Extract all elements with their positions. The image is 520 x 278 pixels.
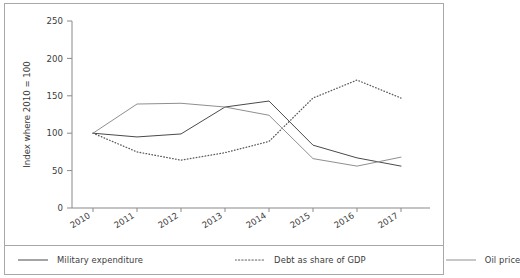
legend-swatch-dotted-icon: [235, 256, 265, 264]
x-axis-tick-label: 2017: [376, 210, 400, 230]
x-axis-tick-label: 2013: [200, 210, 224, 230]
x-axis-tick-label: 2010: [68, 210, 92, 230]
x-axis-tick-label: 2012: [156, 210, 180, 230]
series-line-debt-as-share-of-gdp: [93, 80, 401, 160]
y-axis-tick-label: 250: [47, 16, 63, 26]
x-axis-tick-label: 2015: [288, 210, 312, 230]
legend-item-oil-price: Oil price: [446, 255, 520, 265]
x-axis-tick-label: 2014: [244, 210, 268, 230]
y-axis-tick-label: 0: [58, 203, 63, 213]
legend-label-debt-as-share-of-gdp: Debt as share of GDP: [274, 255, 366, 265]
y-axis-tick-label: 50: [52, 166, 63, 176]
y-axis-tick-label: 100: [47, 128, 63, 138]
y-axis-tick-label: 200: [47, 54, 63, 64]
y-axis-title: Index where 2010 = 100: [22, 61, 32, 167]
legend-item-debt-as-share-of-gdp: Debt as share of GDP: [235, 255, 366, 265]
x-axis-tick-label: 2011: [112, 210, 136, 230]
legend-label-military-expenditure: Military expenditure: [57, 255, 143, 265]
chart-legend: Military expenditure Debt as share of GD…: [5, 246, 443, 274]
y-axis-tick-label: 150: [47, 91, 63, 101]
legend-swatch-solid-dark-icon: [18, 256, 48, 264]
x-axis-tick-label: 2016: [332, 210, 356, 230]
legend-swatch-solid-light-icon: [446, 256, 476, 264]
legend-item-military-expenditure: Military expenditure: [18, 255, 143, 265]
legend-label-oil-price: Oil price: [485, 255, 520, 265]
series-line-oil-price: [93, 103, 401, 166]
